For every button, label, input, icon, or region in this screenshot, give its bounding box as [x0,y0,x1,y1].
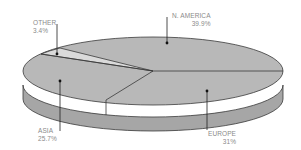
label-asia-name: ASIA [38,127,57,135]
dot-other [56,53,59,56]
dot-asia [59,80,62,83]
label-other: OTHER 3.4% [33,19,56,34]
dot-namerica [166,42,169,45]
label-namerica: N. AMERICA 39.9% [172,12,211,27]
dot-europe [206,90,209,93]
label-europe-name: EUROPE [208,130,236,138]
label-europe: EUROPE 31% [208,130,236,145]
label-other-pct: 3.4% [33,27,56,35]
label-asia-pct: 25.7% [38,135,57,143]
label-namerica-pct: 39.9% [172,20,211,28]
label-europe-pct: 31% [208,138,236,146]
label-namerica-name: N. AMERICA [172,12,211,20]
label-asia: ASIA 25.7% [38,127,57,142]
label-other-name: OTHER [33,19,56,27]
